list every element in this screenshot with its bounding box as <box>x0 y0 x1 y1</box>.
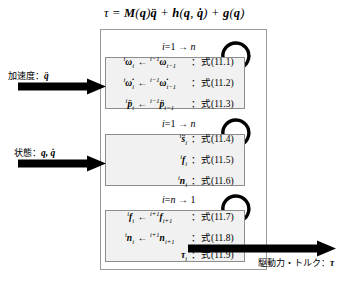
equation-lhs: τi <box>110 249 189 265</box>
equation-row: ifi ：式(11.5) <box>110 150 238 170</box>
assignment-arrow-icon: ← <box>136 97 149 110</box>
assignment-arrow-icon: ← <box>136 231 149 244</box>
loop-label-stage-2: i=1 → n i = 1 → n <box>162 118 195 129</box>
stage-box-link-forces: is̈i ：式(11.4) ifi ：式(11.5) ini ：式(11.6) <box>105 134 245 186</box>
output-label-torque-jp: 駆動力・トルク <box>258 258 321 268</box>
output-label-torque-separator: ： <box>321 258 330 268</box>
equation-row: iω̇i ← i−1ω̇i−1 ：式(11.2) <box>110 73 238 93</box>
stage-box-forward-kinematics: iωi ← i−1ωi−1 ：式(11.1) iω̇i ← i−1ω̇i−1 ：… <box>105 57 245 109</box>
equation-rhs: i−1ω̇i−1 <box>149 73 189 93</box>
output-label-torque-symbol: τ <box>330 258 334 268</box>
output-arrow-torque <box>188 240 336 257</box>
loop-label-stage-1: i=1 → n i = 1 → n <box>162 41 195 52</box>
equation-list-stage-1: iωi ← i−1ωi−1 ：式(11.1) iω̇i ← i−1ω̇i−1 ：… <box>106 58 244 108</box>
equation-reference: ：式(11.3) <box>189 98 238 111</box>
equation-reference: ：式(11.2) <box>189 77 238 90</box>
diagram-canvas: τ = M(q)q̈ + h(q, q̇) + g(q) τ = M(q)q̈ … <box>0 0 340 289</box>
assignment-arrow-icon: ← <box>136 210 149 223</box>
equation-reference: ：式(11.1) <box>189 56 238 69</box>
equation-lhs: ifi <box>110 207 136 227</box>
equation-rhs: i+1fi+1 <box>149 207 189 227</box>
newton-euler-top-equation: τ = M(q)q̈ + h(q, q̇) + g(q) τ = M(q)q̈ … <box>104 6 245 21</box>
equation-rhs: i−1p̈i−1 <box>149 94 189 114</box>
equation-reference: ：式(11.5) <box>189 154 238 167</box>
equation-lhs: is̈i <box>110 129 189 149</box>
equation-lhs: ifi <box>110 150 189 170</box>
equation-lhs: iω̇i <box>110 73 136 93</box>
equation-rhs: i+1ni+1 <box>149 228 189 248</box>
equation-reference: ：式(11.6) <box>189 175 238 188</box>
equation-reference: ：式(11.4) <box>189 133 238 146</box>
equation-row: ip̈i ← i−1p̈i−1 ：式(11.3) <box>110 94 238 114</box>
equation-row: iωi ← i−1ωi−1 ：式(11.1) <box>110 52 238 72</box>
equation-lhs: ini <box>110 171 189 191</box>
equation-list-stage-2: is̈i ：式(11.4) ifi ：式(11.5) ini ：式(11.6) <box>106 135 244 185</box>
equation-rhs: i−1ωi−1 <box>149 52 189 72</box>
equation-row: is̈i ：式(11.4) <box>110 129 238 149</box>
assignment-arrow-icon: ← <box>136 76 149 89</box>
equation-reference: ：式(11.7) <box>189 211 238 224</box>
input-arrow-acceleration <box>18 78 106 95</box>
output-label-torque: 駆動力・トルク：τ <box>258 256 334 269</box>
loop-label-stage-3: i=n → 1 i = n → 1 <box>162 194 195 205</box>
equation-lhs: iωi <box>110 52 136 72</box>
equation-lhs: ip̈i <box>110 94 136 114</box>
equation-lhs: ini <box>110 228 136 248</box>
equation-row: ifi ← i+1fi+1 ：式(11.7) <box>110 207 238 227</box>
input-arrow-state <box>18 155 106 172</box>
assignment-arrow-icon: ← <box>136 55 149 68</box>
